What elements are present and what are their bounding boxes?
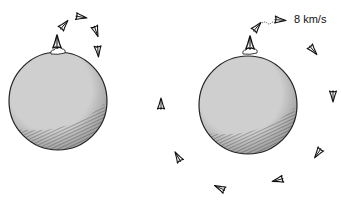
rocket-icon <box>312 147 324 160</box>
rocket-icon <box>53 35 61 48</box>
rocket-icon <box>271 175 283 185</box>
rocket-icon <box>307 44 319 57</box>
rocket-icon <box>91 25 101 38</box>
rocket-icon <box>158 98 165 109</box>
rocket-icon <box>213 182 226 193</box>
rocket-icon <box>246 36 254 49</box>
right-planet <box>199 47 297 154</box>
rocket-icon <box>251 20 263 33</box>
left-planet <box>9 47 107 150</box>
rocket-icon <box>58 18 70 31</box>
rocket-icon <box>275 16 287 24</box>
diagram-canvas <box>0 0 341 202</box>
rocket-icon <box>330 91 337 102</box>
rocket-icon <box>172 150 184 163</box>
rocket-icon <box>94 46 102 58</box>
speed-label: 8 km/s <box>294 13 326 25</box>
rocket-icon <box>75 13 87 22</box>
exhaust-trail-icon <box>262 22 275 24</box>
